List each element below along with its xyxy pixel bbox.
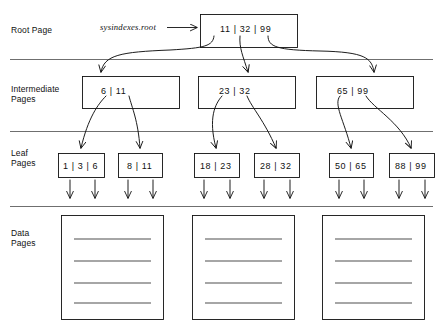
intermediate-page-keys: 65 | 99 [337,86,369,96]
leaf-page-keys: 1 | 3 | 6 [63,161,98,171]
sysindexes-root-pointer-label: sysindexes.root [100,22,156,32]
level-label-intermediate: Intermediate Pages [11,84,59,104]
level-label-root: Root Page [11,25,52,35]
data-page-box [323,216,425,320]
root-page-keys: 11 | 32 | 99 [220,24,271,34]
data-page-box [62,216,164,320]
leaf-to-data-arrows [70,180,425,198]
leaf-page-keys: 18 | 23 [200,161,232,171]
leaf-page-keys: 28 | 32 [260,161,292,171]
level-divider [10,60,433,207]
root-to-intermediate-arrows [101,36,374,72]
data-page-rows [74,239,412,303]
leaf-page-keys: 8 | 11 [127,161,152,171]
intermediate-to-leaf-arrows [81,96,411,148]
diagram-canvas: Root Page Intermediate Pages Leaf Pages … [0,0,439,335]
data-page-box [193,216,295,320]
intermediate-page-keys: 23 | 32 [219,86,251,96]
leaf-page-keys: 50 | 65 [335,161,367,171]
level-label-leaf: Leaf Pages [11,148,36,168]
intermediate-page-keys: 6 | 11 [101,86,126,96]
leaf-page-keys: 88 | 99 [395,161,427,171]
level-label-data: Data Pages [11,228,36,248]
